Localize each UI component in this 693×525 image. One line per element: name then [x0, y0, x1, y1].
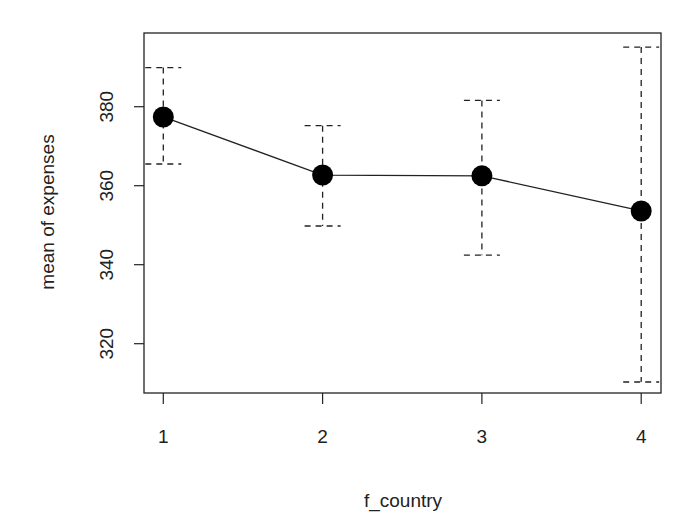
- x-tick-label: 2: [317, 426, 328, 447]
- means-plot: 320340360380 1234 f_country mean of expe…: [0, 0, 693, 525]
- error-bars: [145, 47, 659, 382]
- plot-frame: [144, 33, 661, 393]
- mean-line: [163, 117, 641, 211]
- mean-point: [471, 165, 492, 186]
- y-axis: 320340360380: [96, 91, 144, 360]
- y-axis-title: mean of expenses: [37, 134, 58, 289]
- mean-point: [153, 106, 174, 127]
- x-tick-label: 3: [477, 426, 488, 447]
- x-tick-label: 1: [158, 426, 169, 447]
- mean-point: [312, 165, 333, 186]
- y-tick-label: 340: [96, 249, 117, 281]
- mean-point: [631, 200, 652, 221]
- x-tick-label: 4: [636, 426, 647, 447]
- mean-points: [153, 106, 652, 221]
- x-axis: 1234: [158, 393, 647, 447]
- y-tick-label: 320: [96, 328, 117, 360]
- x-axis-title: f_country: [364, 490, 443, 512]
- y-tick-label: 360: [96, 170, 117, 202]
- y-tick-label: 380: [96, 91, 117, 123]
